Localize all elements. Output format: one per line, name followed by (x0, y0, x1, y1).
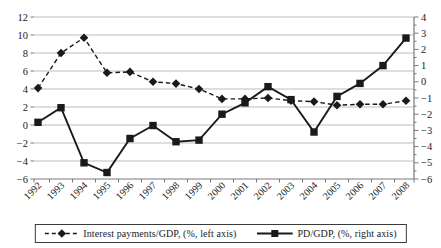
x-axis-tick-label: 2007 (366, 180, 388, 202)
square-marker (57, 104, 64, 111)
square-marker (195, 136, 202, 143)
left-axis-tick-label: 4 (23, 84, 29, 95)
x-axis-tick-label: 2008 (389, 180, 411, 202)
left-axis-tick-label: 0 (23, 120, 28, 131)
diamond-marker (264, 94, 273, 103)
series-pd-gdp (34, 34, 409, 176)
gridlines (34, 17, 414, 161)
diamond-marker (57, 49, 66, 58)
square-marker (80, 159, 87, 166)
square-marker (172, 138, 179, 145)
x-axis-tick-label: 1995 (90, 180, 112, 202)
right-axis-tick-label: −3 (421, 125, 432, 136)
left-axis-tick-label: 8 (23, 48, 28, 59)
right-axis-tick-label: −4 (421, 141, 433, 152)
x-axis-tick-label: 1997 (136, 180, 158, 202)
right-axis-tick-label: 3 (421, 28, 426, 39)
square-marker (402, 34, 409, 41)
x-axis-tick-label: 2004 (297, 180, 319, 202)
left-axis-tick-label: 6 (23, 66, 28, 77)
left-axis-tick-label: 10 (18, 30, 29, 41)
x-axis: 1992199319941995199619971998199920002001… (21, 179, 414, 202)
legend-label-pd-gdp: PD/GDP, (%, right axis) (297, 228, 396, 239)
diamond-marker (195, 85, 204, 94)
diamond-marker (402, 96, 411, 105)
left-axis-tick-label: −4 (17, 156, 29, 167)
square-marker (310, 128, 317, 135)
legend-item-interest-payments: Interest payments/GDP, (%, left axis) (44, 228, 236, 239)
x-axis-tick-label: 2006 (343, 180, 365, 202)
square-marker (103, 169, 110, 176)
right-axis-tick-label: 1 (421, 60, 426, 71)
left-axis-tick-label: −6 (17, 174, 28, 185)
left-axis-tick-label: 12 (18, 12, 29, 23)
dashed-diamond-marker-icon (44, 228, 78, 239)
x-axis-tick-label: 1996 (113, 180, 135, 202)
right-axis-tick-label: −2 (421, 109, 432, 120)
diamond-marker (126, 68, 135, 77)
square-marker (241, 99, 248, 106)
square-marker (126, 135, 133, 142)
square-marker (287, 96, 294, 103)
diamond-marker (310, 97, 319, 106)
right-axis-tick-label: −5 (421, 157, 432, 168)
x-axis-tick-label: 1993 (44, 180, 66, 202)
diamond-marker (218, 95, 227, 104)
x-axis-tick-label: 2005 (320, 180, 342, 202)
x-axis-tick-label: 2000 (205, 180, 227, 202)
square-marker (356, 80, 363, 87)
chart-legend: Interest payments/GDP, (%, left axis) PD… (34, 224, 406, 243)
x-axis-tick-label: 2002 (251, 180, 273, 202)
y-axis-right: 43210−1−2−3−4−5−6 (414, 12, 433, 185)
legend-label-interest-payments: Interest payments/GDP, (%, left axis) (83, 228, 236, 239)
x-axis-tick-label: 1994 (67, 180, 89, 202)
y-axis-left: 121086420−2−4−6 (17, 12, 34, 185)
diamond-marker (103, 69, 112, 78)
x-axis-tick-label: 2003 (274, 180, 296, 202)
square-marker (34, 119, 41, 126)
x-axis-tick-label: 1999 (182, 180, 204, 202)
right-axis-tick-label: −1 (421, 93, 432, 104)
x-axis-tick-label: 1998 (159, 180, 181, 202)
square-marker (333, 93, 340, 100)
square-marker (149, 122, 156, 129)
square-marker (379, 62, 386, 69)
right-axis-tick-label: 0 (421, 76, 426, 87)
diamond-marker (34, 84, 43, 93)
square-marker (264, 83, 271, 90)
left-axis-tick-label: −2 (17, 138, 28, 149)
right-axis-tick-label: −6 (421, 174, 432, 185)
right-axis-tick-label: 4 (421, 12, 427, 23)
x-axis-tick-label: 2001 (228, 180, 250, 202)
diamond-marker (172, 79, 181, 88)
solid-square-marker-icon (256, 228, 292, 239)
chart-figure: 121086420−2−4−643210−1−2−3−4−5−619921993… (0, 0, 441, 248)
dual-axis-line-chart: 121086420−2−4−643210−1−2−3−4−5−619921993… (0, 0, 441, 218)
square-marker (218, 111, 225, 118)
legend-item-pd-gdp: PD/GDP, (%, right axis) (256, 228, 396, 239)
right-axis-tick-label: 2 (421, 44, 426, 55)
left-axis-tick-label: 2 (23, 102, 28, 113)
diamond-marker (149, 78, 158, 87)
